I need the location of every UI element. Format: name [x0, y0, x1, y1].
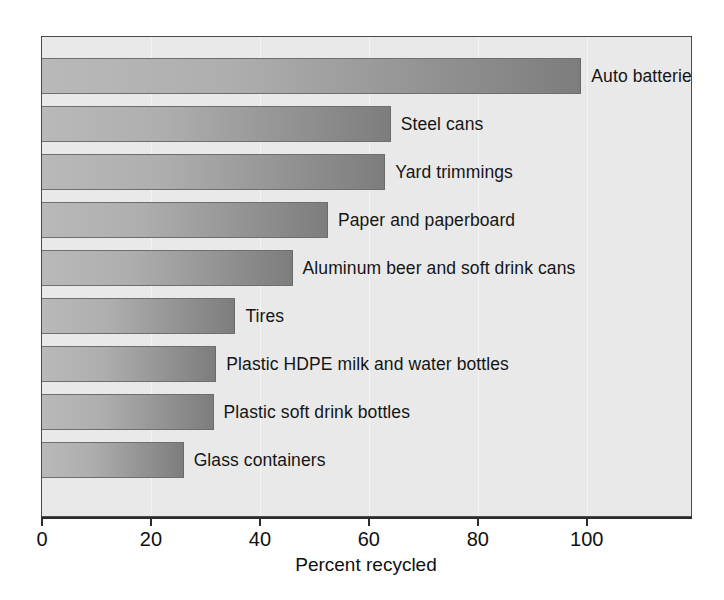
bar[interactable]: [42, 394, 214, 430]
bar-row: Plastic soft drink bottles: [42, 394, 692, 430]
x-tick-label-20: 20: [140, 528, 162, 551]
bar-label: Glass containers: [194, 450, 326, 471]
bar[interactable]: [42, 250, 293, 286]
x-tick-100: [586, 517, 588, 526]
x-axis-title-text: Percent recycled: [295, 554, 437, 576]
bar-row: Auto batteries: [42, 58, 692, 94]
bar-label: Steel cans: [401, 114, 484, 135]
x-axis-title: Percent recycled: [0, 554, 724, 576]
x-tick-0: [41, 517, 43, 526]
bar[interactable]: [42, 106, 391, 142]
bar-label: Aluminum beer and soft drink cans: [303, 258, 576, 279]
x-tick-40: [259, 517, 261, 526]
plot-area: Auto batteriesSteel cansYard trimmingsPa…: [41, 36, 692, 517]
x-tick-60: [368, 517, 370, 526]
bar-label: Paper and paperboard: [338, 210, 515, 231]
x-tick-label-80: 80: [467, 528, 489, 551]
bar-row: Steel cans: [42, 106, 692, 142]
x-axis-line: [41, 517, 692, 519]
x-tick-20: [150, 517, 152, 526]
bar-label: Plastic soft drink bottles: [224, 402, 410, 423]
bar-row: Yard trimmings: [42, 154, 692, 190]
bar-label: Tires: [245, 306, 284, 327]
bar-label: Auto batteries: [591, 66, 692, 87]
x-tick-label-60: 60: [358, 528, 380, 551]
bar-row: Glass containers: [42, 442, 692, 478]
bar-row: Plastic HDPE milk and water bottles: [42, 346, 692, 382]
bar-row: Aluminum beer and soft drink cans: [42, 250, 692, 286]
bar-label: Plastic HDPE milk and water bottles: [226, 354, 509, 375]
x-tick-label-100: 100: [570, 528, 603, 551]
bar[interactable]: [42, 202, 328, 238]
bar[interactable]: [42, 442, 184, 478]
bar[interactable]: [42, 298, 235, 334]
bar-label: Yard trimmings: [395, 162, 513, 183]
bar-chart: Auto batteriesSteel cansYard trimmingsPa…: [0, 0, 724, 600]
bar[interactable]: [42, 346, 216, 382]
bar-row: Paper and paperboard: [42, 202, 692, 238]
x-tick-label-40: 40: [249, 528, 271, 551]
x-tick-label-0: 0: [36, 528, 47, 551]
bar[interactable]: [42, 58, 581, 94]
x-tick-80: [477, 517, 479, 526]
bar-row: Tires: [42, 298, 692, 334]
bar[interactable]: [42, 154, 385, 190]
